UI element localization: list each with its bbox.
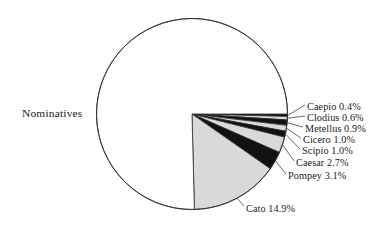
slice-label-scipio: Scipio 1.0% xyxy=(302,145,353,156)
slice-label-caepio: Caepio 0.4% xyxy=(307,101,361,112)
slice-label-pompey: Pompey 3.1% xyxy=(288,170,346,181)
leader-line-cato xyxy=(237,199,244,206)
slice-label-cato: Cato 14.9% xyxy=(246,203,295,214)
leader-line-clodius xyxy=(288,116,305,118)
slice-label-metellus: Metellus 0.9% xyxy=(305,123,366,134)
slice-label-caesar: Caesar 2.7% xyxy=(296,157,349,168)
pie-chart-figure: Nominatives Caepio 0.4% Clodius 0.6% Met… xyxy=(0,0,391,236)
leader-line-caesar xyxy=(283,145,294,161)
pie-slices-group xyxy=(97,18,288,209)
leader-line-pompey xyxy=(276,161,286,174)
leader-line-caepio xyxy=(288,105,305,115)
slice-label-cicero: Cicero 1.0% xyxy=(303,134,355,145)
slice-label-clodius: Clodius 0.6% xyxy=(307,112,364,123)
leader-line-metellus xyxy=(288,123,303,127)
leader-line-scipio xyxy=(286,134,300,149)
chart-center-label: Nominatives xyxy=(22,107,82,119)
leader-line-cicero xyxy=(287,128,301,138)
